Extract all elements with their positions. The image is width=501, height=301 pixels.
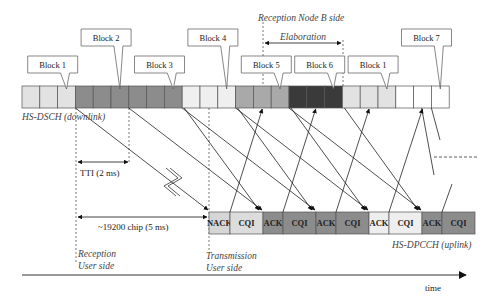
downlink-slot <box>307 86 325 108</box>
uplink-bar: NACKCQIACKCQIACKCQIACKCQIACKCQI <box>207 212 475 234</box>
block-callout: Block 5 <box>241 56 291 89</box>
signal-arrow <box>230 109 262 212</box>
downlink-slot <box>236 86 254 108</box>
signal-arrow <box>431 108 440 140</box>
downlink-slot <box>396 86 414 108</box>
reception-user-label-1: Reception <box>77 249 116 259</box>
downlink-slot <box>431 86 449 108</box>
downlink-slot <box>360 86 378 108</box>
block-callout: Block 7 <box>402 29 452 89</box>
uplink-field-label: ACK <box>264 218 283 228</box>
chip-offset-label: ~19200 chip (5 ms) <box>98 222 169 232</box>
downlink-slot <box>342 86 360 108</box>
block-label: Block 4 <box>200 33 227 43</box>
block-label: Block 6 <box>306 60 333 70</box>
downlink-slot <box>111 86 129 108</box>
downlink-bar <box>22 86 449 108</box>
uplink-field-label: ACK <box>423 218 442 228</box>
signal-arrow <box>336 109 369 212</box>
block-callout: Block 1 <box>28 56 78 89</box>
signal-arrow <box>75 108 208 210</box>
block-callout: Block 6 <box>295 56 345 89</box>
block-callout: Block 4 <box>188 29 238 89</box>
block-label: Block 5 <box>253 60 280 70</box>
time-axis-label: time <box>425 283 441 293</box>
uplink-label: HS-DPCCH (uplink) <box>391 240 471 251</box>
downlink-slot <box>200 86 218 108</box>
transmission-user-label-1: Transmission <box>206 251 257 261</box>
block-label: Block 3 <box>146 60 173 70</box>
block-label: Block 1 <box>39 60 66 70</box>
reception-node-b-label: Reception Node B side <box>257 13 344 23</box>
time-break-icon <box>164 168 182 196</box>
block-callouts: Block 1Block 2Block 3Block 4Block 5Block… <box>28 29 452 89</box>
block-label: Block 1 <box>360 60 387 70</box>
downlink-slot <box>218 86 236 108</box>
downlink-slot <box>129 86 147 108</box>
hsdpa-timing-diagram: Block 1Block 2Block 3Block 4Block 5Block… <box>0 0 501 301</box>
uplink-field-label: ACK <box>317 218 336 228</box>
tti-label: TTI (2 ms) <box>80 168 120 178</box>
elaboration-label: Elaboration <box>279 32 326 42</box>
downlink-slot <box>22 86 40 108</box>
block-label: Block 7 <box>413 33 440 43</box>
downlink-slot <box>75 86 93 108</box>
signal-arrow <box>283 109 316 212</box>
transmission-user-label-2: User side <box>206 263 242 273</box>
uplink-field-label: CQI <box>238 218 255 228</box>
uplink-field-label: CQI <box>291 218 308 228</box>
signal-arrow <box>442 184 452 212</box>
downlink-slot <box>289 86 307 108</box>
reception-user-label-2: User side <box>78 261 114 271</box>
uplink-field-label: ACK <box>370 218 389 228</box>
block-label: Block 2 <box>93 33 120 43</box>
uplink-field-label: CQI <box>397 218 414 228</box>
block-callout: Block 3 <box>135 56 185 89</box>
downlink-slot <box>40 86 58 108</box>
block-callout: Block 2 <box>81 29 131 89</box>
uplink-field-label: CQI <box>344 218 361 228</box>
signal-arrow <box>389 109 423 212</box>
uplink-field-label: CQI <box>450 218 467 228</box>
downlink-slot <box>147 86 165 108</box>
uplink-field-label: NACK <box>207 218 232 228</box>
downlink-slot <box>93 86 111 108</box>
signal-arrows <box>75 108 452 212</box>
downlink-slot <box>253 86 271 108</box>
block-callout: Block 1 <box>348 56 398 89</box>
downlink-label: HS-DSCH (downlink) <box>21 112 105 123</box>
signal-arrow <box>422 108 434 175</box>
downlink-slot <box>182 86 200 108</box>
downlink-slot <box>414 86 432 108</box>
